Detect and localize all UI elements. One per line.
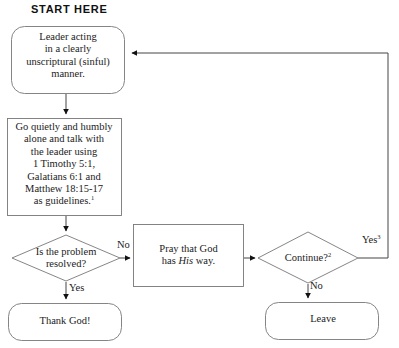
edge-label-resolved-no: No [117,239,130,250]
node-go-talk-to-leader[interactable] [8,119,122,216]
node-thank-god[interactable] [9,304,122,341]
node-leave[interactable] [266,303,379,340]
node-leader-acting[interactable] [12,27,125,94]
node-pray-god-his-way[interactable] [134,225,244,287]
edge-label-continue-yes: Yes3 [362,234,381,245]
node-continue[interactable] [258,232,358,283]
continue-yes-body: Yes [362,234,377,245]
start-here-label: START HERE [31,3,107,15]
edge-label-continue-no: No [310,280,323,291]
flowchart-canvas [0,0,399,348]
footnote-marker-3: 3 [377,233,380,240]
edge-label-resolved-yes: Yes [69,282,84,293]
node-is-problem-resolved[interactable] [12,235,120,281]
